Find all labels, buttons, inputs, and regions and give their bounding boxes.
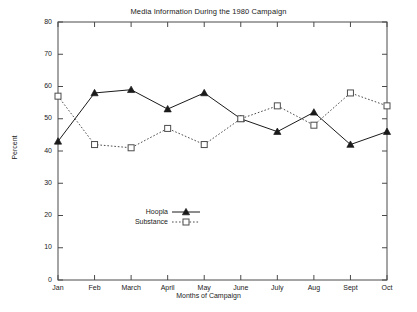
y-tick-label: 20 — [28, 211, 52, 218]
series-markers-substance — [55, 90, 390, 151]
data-point-marker — [92, 142, 98, 148]
y-tick-label: 40 — [28, 147, 52, 154]
plot-frame — [58, 22, 387, 280]
x-axis-ticks — [58, 22, 387, 280]
data-point-marker — [128, 145, 134, 151]
x-tick-label: June — [221, 284, 261, 291]
plot-area — [0, 0, 417, 312]
data-point-marker — [274, 103, 280, 109]
data-point-marker — [183, 219, 189, 225]
data-point-marker — [238, 116, 244, 122]
data-point-marker — [165, 125, 171, 131]
data-point-marker — [311, 122, 317, 128]
legend — [172, 208, 200, 225]
data-point-marker — [128, 86, 135, 92]
series-line-substance — [58, 93, 387, 148]
x-tick-label: April — [148, 284, 188, 291]
series-line-hoopla — [58, 90, 387, 145]
data-series-group — [54, 86, 390, 151]
data-point-marker — [384, 103, 390, 109]
y-tick-label: 50 — [28, 114, 52, 121]
x-tick-label: May — [184, 284, 224, 291]
y-tick-label: 30 — [28, 179, 52, 186]
legend-entry-hoopla: Hoopla — [98, 208, 168, 215]
chart-figure: Media Information During the 1980 Campai… — [0, 0, 417, 312]
x-tick-label: Sept — [330, 284, 370, 291]
y-tick-label: 60 — [28, 82, 52, 89]
data-point-marker — [347, 90, 353, 96]
y-tick-label: 10 — [28, 243, 52, 250]
y-tick-label: 70 — [28, 50, 52, 57]
x-tick-label: Jan — [38, 284, 78, 291]
x-tick-label: Aug — [294, 284, 334, 291]
data-point-marker — [164, 105, 171, 111]
y-tick-label: 80 — [28, 18, 52, 25]
data-point-marker — [201, 89, 208, 95]
x-tick-label: Oct — [367, 284, 407, 291]
y-tick-label: 0 — [28, 276, 52, 283]
data-point-marker — [310, 109, 317, 115]
data-point-marker — [383, 128, 390, 134]
x-tick-label: March — [111, 284, 151, 291]
data-point-marker — [201, 142, 207, 148]
y-axis-ticks — [58, 22, 387, 280]
data-point-marker — [55, 93, 61, 99]
x-tick-label: July — [257, 284, 297, 291]
x-tick-label: Feb — [75, 284, 115, 291]
legend-entry-substance: Substance — [98, 218, 168, 225]
series-markers-hoopla — [54, 86, 390, 147]
